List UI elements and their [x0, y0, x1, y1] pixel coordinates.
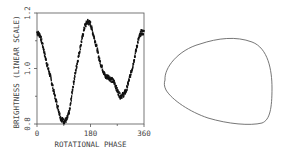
- data-points: [36, 19, 144, 124]
- x-tick-label: 180: [84, 129, 98, 138]
- y-tick-label: 1.0: [23, 61, 32, 75]
- y-tick-label: 0.8: [23, 117, 32, 131]
- lightcurve-plot: 0 180 360 ROTATIONAL PHASE 0.8 1.0 1.2 B…: [12, 6, 151, 149]
- y-axis-label: BRIGHTNESS (LINEAR SCALE): [12, 16, 21, 129]
- plot-frame: [37, 13, 144, 124]
- y-tick-label: 1.2: [23, 6, 32, 20]
- x-tick-label: 360: [137, 129, 151, 138]
- asteroid-shape-outline: [164, 38, 272, 124]
- x-axis-label: ROTATIONAL PHASE: [54, 140, 127, 149]
- y-ticks: [34, 13, 37, 124]
- x-tick-label: 0: [35, 129, 40, 138]
- figure: 0 180 360 ROTATIONAL PHASE 0.8 1.0 1.2 B…: [0, 0, 281, 154]
- x-ticks: [37, 124, 144, 127]
